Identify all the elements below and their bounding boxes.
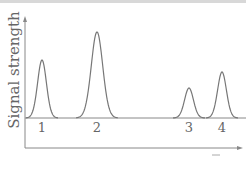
y-axis-arrow-icon: [23, 16, 27, 22]
peak-label-4: 4: [218, 120, 226, 135]
peak-label-2: 2: [93, 120, 101, 135]
x-axis-arrow-icon: [237, 146, 243, 150]
peak-curve-3: [173, 88, 205, 118]
peak-label-3: 3: [185, 120, 193, 135]
peak-curves: [26, 32, 238, 118]
peak-label-1: 1: [38, 120, 46, 135]
y-axis-label: Signal strength: [5, 11, 23, 129]
peak-curve-2: [76, 32, 118, 118]
peak-curve-1: [26, 60, 58, 118]
peak-curve-4: [206, 72, 238, 118]
chart-canvas: [0, 0, 246, 170]
